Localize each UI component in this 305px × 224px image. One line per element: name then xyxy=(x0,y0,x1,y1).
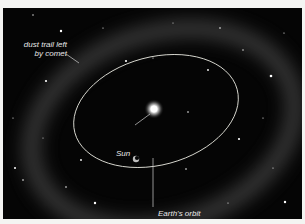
sun-pointer xyxy=(135,114,150,125)
dust-trail-label: dust trail left by comet xyxy=(17,40,67,58)
sun-label: Sun xyxy=(116,149,130,158)
earth-orbit-label: Earth's orbit xyxy=(158,209,200,218)
dust-trail-label-line2: by comet xyxy=(17,49,67,58)
space-illustration: dust trail left by comet Sun Earth's orb… xyxy=(3,8,302,219)
dust-trail-label-line1: dust trail left xyxy=(17,40,67,49)
